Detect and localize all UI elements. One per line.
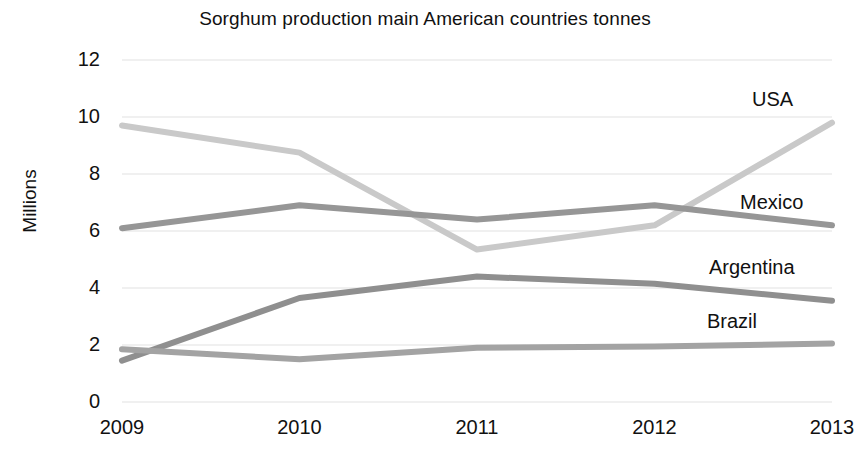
series-label-usa: USA: [752, 88, 793, 111]
x-tick-label: 2011: [417, 416, 537, 439]
series-line-brazil: [122, 344, 832, 360]
series-label-mexico: Mexico: [740, 191, 803, 214]
y-tick-label: 2: [44, 334, 100, 354]
y-tick-label: 6: [44, 220, 100, 240]
series-line-mexico: [122, 205, 832, 228]
x-tick-label: 2013: [772, 416, 858, 439]
y-tick-label: 4: [44, 277, 100, 297]
y-tick-label: 0: [44, 391, 100, 411]
x-tick-label: 2009: [62, 416, 182, 439]
series-label-argentina: Argentina: [709, 256, 795, 279]
x-tick-label: 2010: [240, 416, 360, 439]
y-tick-label: 12: [44, 49, 100, 69]
y-tick-label: 10: [44, 106, 100, 126]
x-tick-label: 2012: [595, 416, 715, 439]
series-label-brazil: Brazil: [707, 310, 757, 333]
y-tick-label: 8: [44, 163, 100, 183]
